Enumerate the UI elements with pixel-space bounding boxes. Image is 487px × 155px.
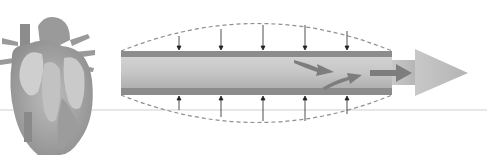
blood-vessel-tube bbox=[121, 51, 392, 95]
heart-vessel-diagram bbox=[0, 0, 487, 155]
diagram-canvas bbox=[0, 0, 487, 155]
heart-illustration bbox=[0, 17, 95, 155]
